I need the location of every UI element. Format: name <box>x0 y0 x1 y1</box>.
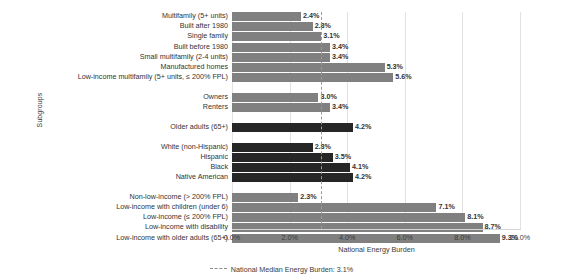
bar-category-label: Manufactured homes <box>160 62 228 72</box>
bar-category-label: Hispanic <box>200 152 228 162</box>
bar <box>232 93 318 102</box>
gridline <box>520 12 521 229</box>
bar <box>232 73 393 82</box>
bar-category-label: Owners <box>203 92 228 102</box>
bar-value-label: 5.3% <box>387 62 403 72</box>
bar <box>232 123 353 132</box>
bar-category-label: Black <box>210 162 228 172</box>
chart-legend: National Median Energy Burden: 3.1% <box>0 264 563 274</box>
national-median-reference-line <box>321 12 322 229</box>
bar-category-label: Low-income with children (under 6) <box>116 202 228 212</box>
bar-row: White (non-Hispanic)2.8% <box>232 143 520 152</box>
bar <box>232 143 313 152</box>
bar <box>232 173 353 182</box>
bar <box>232 32 321 41</box>
bar-row: Built after 19802.8% <box>232 22 520 31</box>
bar-category-label: Built before 1980 <box>174 42 228 52</box>
y-axis-title: Subgroups <box>36 70 43 150</box>
bar-value-label: 3.0% <box>320 92 336 102</box>
bar-category-label: Low-income multifamily (5+ units, ≤ 200%… <box>78 72 228 82</box>
bar-row: Hispanic3.5% <box>232 153 520 162</box>
bar-value-label: 3.4% <box>332 102 348 112</box>
bar-value-label: 2.8% <box>315 21 331 31</box>
bar-row: Native American4.2% <box>232 173 520 182</box>
bar <box>232 153 333 162</box>
bar-row: Black4.1% <box>232 163 520 172</box>
bar <box>232 203 436 212</box>
x-axis-tick-label: 0.0% <box>202 233 262 242</box>
x-axis-tick-label: 8.0% <box>432 233 492 242</box>
bar-row: Owners3.0% <box>232 93 520 102</box>
bar-value-label: 3.4% <box>332 42 348 52</box>
bar-category-label: Renters <box>203 102 228 112</box>
bar <box>232 12 301 21</box>
bar-category-label: Low-income (≤ 200% FPL) <box>143 212 228 222</box>
bar <box>232 193 298 202</box>
bar-value-label: 4.2% <box>355 122 371 132</box>
bar-category-label: Multifamily (5+ units) <box>162 11 228 21</box>
bar-category-label: Native American <box>176 172 228 182</box>
bar-value-label: 8.1% <box>467 212 483 222</box>
bar-category-label: Non-low-income (> 200% FPL) <box>130 192 228 202</box>
bar-row: Small multifamily (2-4 units)3.4% <box>232 53 520 62</box>
bar-row: Low-income with children (under 6)7.1% <box>232 203 520 212</box>
bar-value-label: 2.8% <box>315 142 331 152</box>
bar-category-label: White (non-Hispanic) <box>161 142 228 152</box>
x-axis-title: National Energy Burden <box>232 245 521 254</box>
bar-value-label: 3.1% <box>323 31 339 41</box>
bar <box>232 163 350 172</box>
bar <box>232 103 330 112</box>
bar-value-label: 5.6% <box>395 72 411 82</box>
bar-row: Older adults (65+)4.2% <box>232 123 520 132</box>
bar-category-label: Single family <box>187 31 228 41</box>
bar-value-label: 7.1% <box>438 202 454 212</box>
x-axis-tick-label: 2.0% <box>260 233 320 242</box>
plot-area: Multifamily (5+ units)2.4%Built after 19… <box>232 12 520 229</box>
bar-row: Single family3.1% <box>232 32 520 41</box>
bar-row: Multifamily (5+ units)2.4% <box>232 12 520 21</box>
bar-value-label: 3.4% <box>332 52 348 62</box>
bar <box>232 63 385 72</box>
bar-row: Low-income with disability8.7% <box>232 223 520 232</box>
bar-category-label: Low-income with disability <box>145 222 228 232</box>
x-axis-tick-label: 4.0% <box>317 233 377 242</box>
bar-value-label: 2.4% <box>303 11 319 21</box>
bar <box>232 213 465 222</box>
bar <box>232 43 330 52</box>
x-axis-tick-label: 10.0% <box>490 233 550 242</box>
legend-label: National Median Energy Burden: 3.1% <box>231 265 353 274</box>
bar-value-label: 8.7% <box>485 222 501 232</box>
bar <box>232 53 330 62</box>
bar-category-label: Small multifamily (2-4 units) <box>140 52 228 62</box>
energy-burden-bar-chart: Subgroups Multifamily (5+ units)2.4%Buil… <box>0 0 563 280</box>
x-axis-tick-label: 6.0% <box>375 233 435 242</box>
bar-value-label: 4.2% <box>355 172 371 182</box>
bar-row: Non-low-income (> 200% FPL)2.3% <box>232 193 520 202</box>
bar-value-label: 2.3% <box>300 192 316 202</box>
x-axis-line <box>232 229 521 230</box>
bar <box>232 223 483 232</box>
bar-row: Built before 19803.4% <box>232 43 520 52</box>
dashed-line-icon <box>210 268 227 269</box>
bar-row: Low-income (≤ 200% FPL)8.1% <box>232 213 520 222</box>
bar <box>232 22 313 31</box>
bar-row: Renters3.4% <box>232 103 520 112</box>
bar-row: Low-income multifamily (5+ units, ≤ 200%… <box>232 73 520 82</box>
legend-item-national-median: National Median Energy Burden: 3.1% <box>210 264 353 274</box>
bar-category-label: Older adults (65+) <box>170 122 228 132</box>
bar-category-label: Built after 1980 <box>180 21 228 31</box>
bar-row: Manufactured homes5.3% <box>232 63 520 72</box>
bar-value-label: 4.1% <box>352 162 368 172</box>
bar-value-label: 3.5% <box>335 152 351 162</box>
